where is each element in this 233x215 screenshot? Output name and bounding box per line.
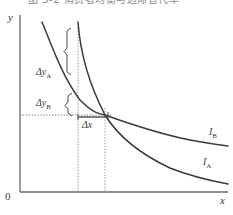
curve-b-label-subscript: B — [212, 132, 217, 140]
delta-x-label: Δx — [82, 119, 92, 130]
delta-y-b-label-subscript: B — [46, 103, 51, 111]
indifference-curve-b — [42, 22, 228, 146]
delta-y-b-label-main: Δy — [36, 97, 46, 108]
delta-y-a-bracket — [64, 28, 71, 75]
plot-area — [0, 0, 233, 215]
delta-y-b-label: ΔyB — [36, 97, 51, 111]
y-axis-label: y — [8, 11, 13, 23]
curve-a-label-subscript: A — [206, 162, 211, 170]
curve-b-label: IB — [209, 126, 217, 140]
delta-y-a-label-main: Δy — [36, 66, 46, 77]
x-axis-label: x — [220, 194, 225, 206]
axis-group — [20, 15, 228, 192]
delta-y-a-label: ΔyA — [36, 66, 51, 80]
figure-container: 图 5-2 消费者均衡与边际替代率 — [0, 0, 233, 215]
delta-y-b-bracket — [65, 93, 72, 116]
delta-y-a-label-subscript: A — [46, 72, 51, 80]
curve-a-label: IA — [203, 156, 211, 170]
origin-label: 0 — [5, 190, 11, 202]
guide-lines-group — [20, 28, 112, 192]
